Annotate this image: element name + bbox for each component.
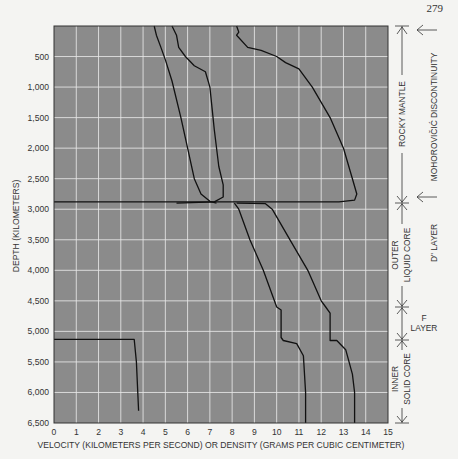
earth-interior-chart: 0123456789101112131415 5001,0001,5002,00… [0, 0, 458, 459]
x-axis-label: VELOCITY (KILOMETERS PER SECOND) OR DENS… [38, 440, 405, 450]
x-tick-label: 0 [52, 427, 57, 437]
x-tick-label: 2 [96, 427, 101, 437]
y-tick-label: 2,500 [27, 174, 49, 184]
d-layer-label: D" LAYER [429, 224, 439, 262]
y-tick-label: 1,500 [27, 113, 49, 123]
plot-background [54, 26, 388, 423]
y-tick-label: 1,000 [27, 82, 49, 92]
solid-core-label: SOLID CORE [402, 353, 412, 405]
y-axis-ticks: 5001,0001,5002,0002,5003,0003,5004,0004,… [27, 52, 49, 428]
x-tick-label: 4 [141, 427, 146, 437]
x-axis-ticks: 0123456789101112131415 [52, 427, 393, 437]
y-tick-label: 6,000 [27, 387, 49, 397]
x-tick-label: 6 [185, 427, 190, 437]
y-tick-label: 5,500 [27, 357, 49, 367]
x-tick-label: 7 [207, 427, 212, 437]
x-tick-label: 8 [230, 427, 235, 437]
y-tick-label: 5,000 [27, 326, 49, 336]
y-tick-label: 3,000 [27, 204, 49, 214]
inner-label: INNER [390, 366, 400, 392]
outer-label: OUTER [390, 240, 400, 269]
y-axis-label: DEPTH (KILOMETERS) [11, 180, 21, 273]
x-tick-label: 11 [294, 427, 303, 437]
y-tick-label: 3,500 [27, 235, 49, 245]
layer-label: LAYER [411, 323, 438, 333]
x-tick-label: 1 [74, 427, 79, 437]
x-tick-label: 5 [163, 427, 168, 437]
x-tick-label: 12 [316, 427, 326, 437]
x-tick-label: 14 [361, 427, 371, 437]
moho-label: MOHOROVIČIĆ DISCONTINUITY [429, 52, 439, 181]
y-tick-label: 2,000 [27, 143, 49, 153]
y-tick-label: 500 [35, 52, 50, 62]
liquid-core-label: LIQUID CORE [402, 227, 412, 282]
x-tick-label: 9 [252, 427, 257, 437]
y-tick-label: 6,500 [27, 418, 49, 428]
x-tick-label: 15 [383, 427, 393, 437]
rocky-mantle-label: ROCKY MANTLE [397, 81, 407, 147]
y-tick-label: 4,000 [27, 265, 49, 275]
x-tick-label: 3 [118, 427, 123, 437]
x-tick-label: 13 [339, 427, 349, 437]
y-tick-label: 4,500 [27, 296, 49, 306]
f-label: F [421, 313, 426, 323]
x-tick-label: 10 [272, 427, 282, 437]
